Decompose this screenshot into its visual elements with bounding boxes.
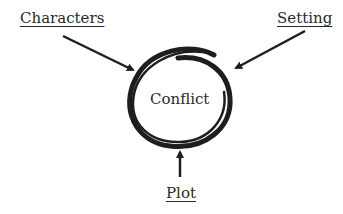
node-setting: Setting [277, 9, 332, 27]
node-characters: Characters [20, 9, 104, 27]
arrow-characters-icon [63, 36, 133, 70]
node-plot: Plot [166, 184, 196, 202]
arrow-setting-icon [236, 31, 305, 68]
center-conflict: Conflict [150, 90, 209, 108]
diagram-canvas: Characters Setting Plot Conflict [0, 0, 343, 214]
